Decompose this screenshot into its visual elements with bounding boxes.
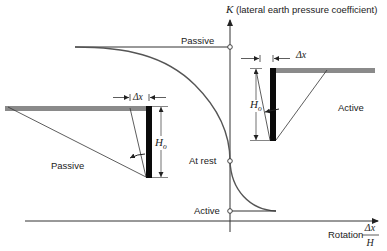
k-rotation-curve [75, 47, 276, 211]
passive-displaced-wall-line [130, 108, 146, 177]
at-rest-marker [228, 159, 233, 164]
passive-inset: Δx Ho Passive [5, 92, 168, 178]
active-marker [228, 209, 233, 214]
active-level-label: Active [194, 205, 220, 216]
x-axis-fraction-denominator: H [365, 237, 374, 248]
active-height-label: Ho [249, 98, 262, 113]
at-rest-label: At rest [189, 155, 217, 166]
passive-height-label: Ho [154, 136, 167, 151]
y-axis-title: K (lateral earth pressure coefficient) [225, 3, 377, 15]
active-inset-label: Active [338, 102, 364, 113]
passive-inset-label: Passive [51, 160, 84, 171]
earth-pressure-diagram: K (lateral earth pressure coefficient) R… [0, 0, 387, 251]
passive-dx-label: Δx [132, 92, 144, 102]
passive-level-label: Passive [181, 35, 214, 46]
active-failure-plane [276, 70, 327, 140]
passive-wall [146, 106, 152, 178]
passive-soil-surface [5, 106, 147, 111]
passive-height-label-sub: o [163, 142, 167, 151]
x-axis-label: Rotation [328, 229, 363, 240]
passive-rotation-arrow [130, 154, 145, 158]
active-dx-label: Δx [295, 49, 307, 60]
passive-marker [228, 45, 233, 50]
active-wall [270, 68, 276, 141]
x-axis-fraction-numerator: Δx [364, 222, 376, 233]
y-axis-label: (lateral earth pressure coefficient) [233, 4, 377, 15]
active-inset: Δx Ho Active [241, 49, 375, 141]
active-height-label-sub: o [258, 104, 262, 113]
